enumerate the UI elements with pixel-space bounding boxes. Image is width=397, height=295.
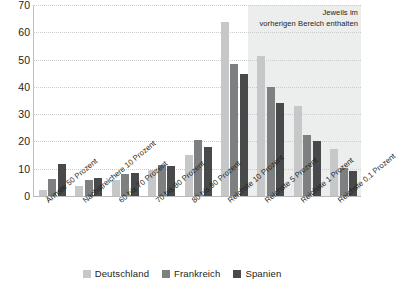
note-line-1: Jeweils im — [208, 8, 358, 19]
legend-label: Deutschland — [95, 268, 149, 279]
x-axis-labels: Ärmste 50 ProzentNächstreichere 10 Proze… — [33, 196, 361, 266]
y-tick-label: 10 — [2, 164, 30, 174]
y-tick-label: 0 — [2, 191, 30, 201]
legend-item: Frankreich — [162, 268, 220, 279]
bar — [240, 74, 248, 196]
bar — [230, 64, 238, 196]
legend-swatch — [233, 270, 241, 278]
chart-legend: DeutschlandFrankreichSpanien — [0, 268, 364, 279]
y-tick-label: 60 — [2, 27, 30, 37]
bar — [75, 186, 83, 196]
y-tick-label: 40 — [2, 82, 30, 92]
legend-label: Frankreich — [174, 268, 220, 279]
legend-item: Deutschland — [83, 268, 149, 279]
bar — [267, 87, 275, 196]
shaded-region-note: Jeweils im vorherigen Bereich enthalten — [208, 8, 358, 29]
legend-item: Spanien — [233, 268, 281, 279]
y-tick-label: 70 — [2, 0, 30, 10]
legend-label: Spanien — [245, 268, 281, 279]
legend-swatch — [162, 270, 170, 278]
y-tick-label: 30 — [2, 109, 30, 119]
note-line-2: vorherigen Bereich enthalten — [208, 19, 358, 30]
y-tick-label: 20 — [2, 136, 30, 146]
legend-swatch — [83, 270, 91, 278]
y-tick-label: 50 — [2, 55, 30, 65]
y-axis-ticks: 010203040506070 — [0, 5, 30, 196]
bar-group — [39, 5, 66, 196]
